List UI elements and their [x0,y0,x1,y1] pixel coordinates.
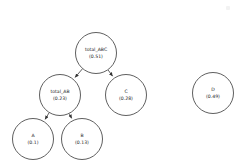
graph-node-total_ABC[interactable]: total_ABC(0.51) [76,33,117,74]
node-layer: total_ABC(0.51)total_AB(0.23)C(0.28)A(0.… [13,33,234,160]
node-value-C: (0.28) [119,96,133,101]
graph-edge-total_ABC-to-total_AB [75,69,82,78]
graph-node-D[interactable]: D(0.49) [193,73,234,114]
node-value-D: (0.49) [206,94,220,99]
graph-canvas: total_ABC(0.51)total_AB(0.23)C(0.28)A(0.… [0,0,247,165]
graph-edge-total_AB-to-B [69,114,71,119]
graph-node-B[interactable]: B(0.13) [62,119,103,160]
graph-node-C[interactable]: C(0.28) [106,75,147,116]
node-value-A: (0.1) [28,140,39,145]
node-value-total_ABC: (0.51) [89,54,103,59]
graph-edge-total_AB-to-A [45,113,49,119]
node-label-B: B [80,133,83,138]
corner-artifact [226,6,230,10]
graph-edge-total_ABC-to-C [108,70,112,76]
node-label-D: D [211,87,215,92]
graph-node-total_AB[interactable]: total_AB(0.23) [40,75,81,116]
node-value-total_AB: (0.23) [53,96,67,101]
graph-node-A[interactable]: A(0.1) [13,119,54,160]
node-value-B: (0.13) [75,140,89,145]
node-label-C: C [124,89,127,94]
